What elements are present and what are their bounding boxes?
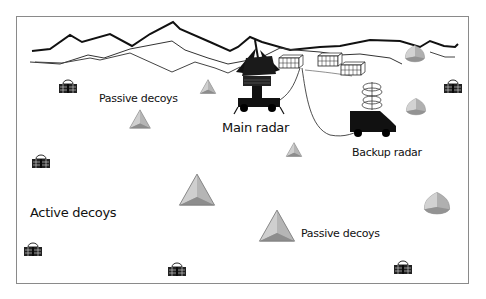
label-passive-decoys-bottom: Passive decoys [301,227,380,240]
passive-decoy-icon [259,210,294,241]
shelter-icon [279,55,303,68]
rounded-decoy-icon [406,98,425,114]
active-decoy-icon [168,263,186,276]
passive-decoy-icon [286,143,302,157]
passive-decoy-icon [130,110,151,128]
cable-main-to-shelter [280,68,300,100]
label-main-radar: Main radar [222,120,289,135]
shelter-icon [341,62,365,75]
passive-decoy-icon [200,80,216,94]
active-decoy-icon [394,261,412,274]
label-passive-decoys-top: Passive decoys [99,92,178,105]
active-decoy-icon [24,243,42,256]
rounded-decoy-icon [424,192,449,214]
mountain-ridge-back [35,53,240,73]
mountain-ridge-front [32,22,458,51]
mountain-ridge-right [430,52,455,57]
rounded-decoy-icon [405,45,424,61]
active-decoy-icon [59,80,77,93]
main-radar-icon [234,40,284,114]
active-decoy-icon [32,155,50,168]
label-backup-radar: Backup radar [352,146,422,159]
backup-radar-icon [350,82,396,137]
passive-decoy-icon [179,174,214,205]
label-active-decoys: Active decoys [30,205,116,220]
shelter-icon [318,53,342,66]
active-decoy-icon [444,80,462,93]
